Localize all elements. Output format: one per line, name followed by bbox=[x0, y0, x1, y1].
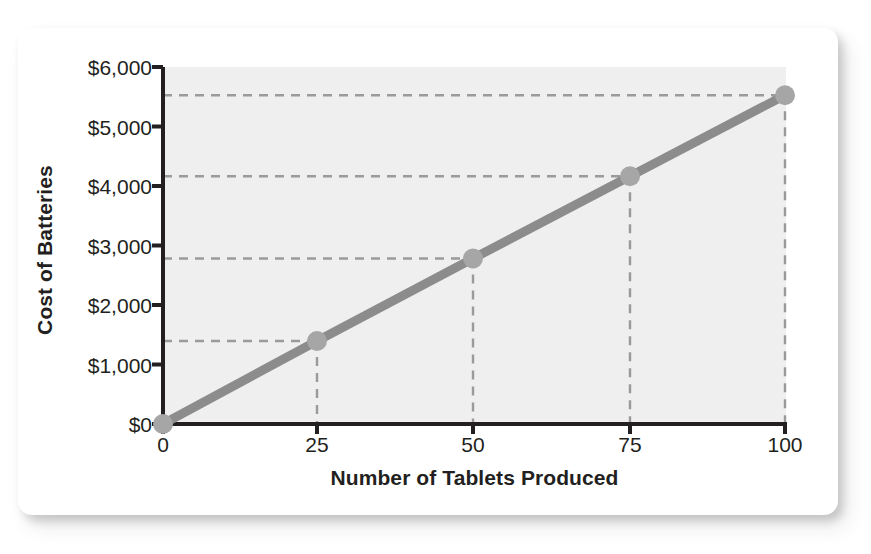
x-tick-label-100: 100 bbox=[740, 434, 830, 455]
data-point-50 bbox=[463, 249, 483, 269]
data-point-75 bbox=[620, 166, 640, 186]
data-point-25 bbox=[307, 331, 327, 351]
y-tick-label-4000: $4,000 bbox=[88, 176, 152, 197]
y-tick-label-1000: $1,000 bbox=[88, 354, 152, 375]
data-point-0 bbox=[153, 414, 173, 434]
y-tick-label-0: $0 bbox=[129, 414, 152, 435]
data-point-100 bbox=[775, 85, 795, 105]
horizontal-guide-lines bbox=[163, 95, 785, 341]
y-tick-label-2000: $2,000 bbox=[88, 295, 152, 316]
x-tick-label-0: 0 bbox=[118, 434, 208, 455]
x-tick-label-25: 25 bbox=[272, 434, 362, 455]
y-tick-label-6000: $6,000 bbox=[88, 57, 152, 78]
y-tick-label-5000: $5,000 bbox=[88, 116, 152, 137]
x-tick-label-75: 75 bbox=[585, 434, 675, 455]
y-axis-title: Cost of Batteries bbox=[33, 120, 57, 380]
x-tick-label-50: 50 bbox=[428, 434, 518, 455]
y-tick-label-3000: $3,000 bbox=[88, 235, 152, 256]
x-axis-title: Number of Tablets Produced bbox=[163, 466, 786, 490]
figure-root: $6,000 $5,000 $4,000 $3,000 $2,000 $1,00… bbox=[0, 0, 871, 554]
